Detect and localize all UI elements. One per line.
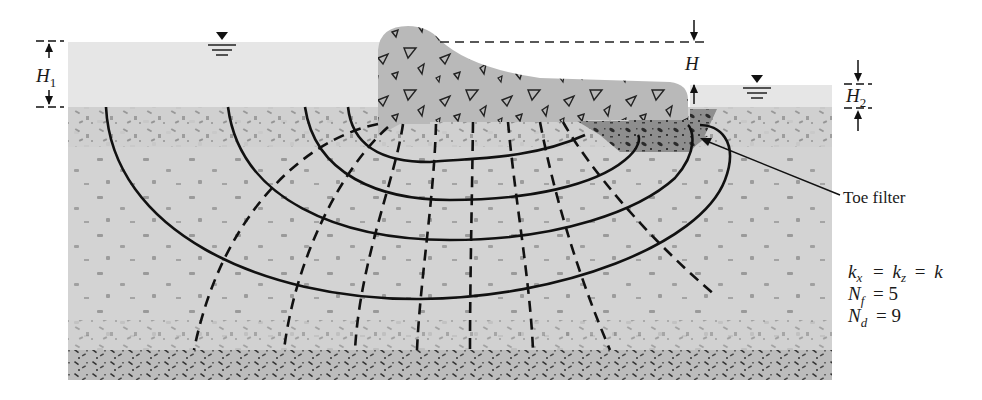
upstream-water (68, 42, 388, 107)
flow-net-diagram: H1 H H2 Toe filter kx = kz = k Nf = 5 (0, 0, 982, 400)
h2-label: H2 (845, 85, 866, 110)
toe-filter-label: Toe filter (843, 188, 906, 207)
soil-parameters: kx = kz = k Nf = 5 Nd = 9 (847, 261, 943, 331)
h-label: H (684, 53, 700, 74)
h1-label: H1 (35, 65, 56, 90)
impermeable-layer (68, 350, 832, 380)
potential-drops-count: Nd = 9 (847, 305, 901, 331)
soil-bottom-texture (68, 320, 832, 350)
